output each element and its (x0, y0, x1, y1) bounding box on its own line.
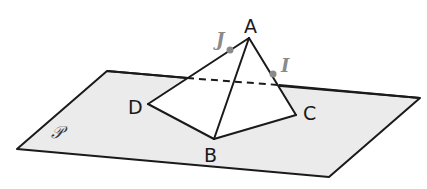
point-i (270, 71, 277, 78)
label-d: D (128, 96, 143, 118)
label-i: I (280, 55, 290, 76)
label-a: A (244, 15, 257, 37)
label-c: C (303, 102, 316, 124)
label-b: B (204, 144, 217, 166)
pyramid-diagram: A B C D I J 𝒫 (0, 0, 427, 189)
label-j: J (213, 29, 226, 50)
point-j (227, 47, 234, 54)
